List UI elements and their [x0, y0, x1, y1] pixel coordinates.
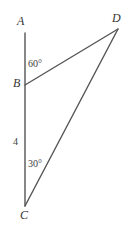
- angle-label-b: 60°: [28, 59, 42, 69]
- point-label-c: C: [20, 209, 28, 221]
- segment-cd: [25, 29, 118, 206]
- geometry-figure: A B C D 60° 30° 4: [0, 0, 132, 226]
- side-length-label-bc: 4: [13, 137, 18, 147]
- angle-label-c: 30°: [28, 159, 42, 169]
- point-label-b: B: [13, 77, 20, 89]
- geometry-canvas: [0, 0, 132, 226]
- point-label-d: D: [112, 12, 121, 24]
- point-label-a: A: [17, 15, 24, 27]
